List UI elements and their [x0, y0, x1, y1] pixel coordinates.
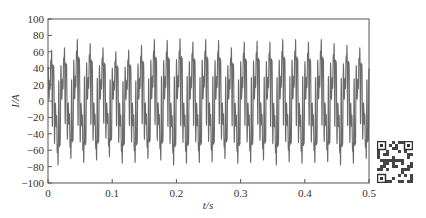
x-tick-label: 0.5	[362, 187, 376, 199]
y-axis-label: I/A	[9, 94, 21, 109]
y-tick-label: −40	[27, 128, 45, 140]
current-waveform-chart: 100806040200−20−40−60−80−100 00.10.20.30…	[0, 0, 426, 218]
x-tick-label: 0.4	[298, 187, 312, 199]
x-axis-ticks: 00.10.20.30.40.5	[45, 179, 376, 199]
x-tick-label: 0	[45, 187, 51, 199]
qr-code-icon	[377, 141, 413, 183]
y-tick-label: 60	[33, 46, 45, 58]
x-axis-label: t/s	[203, 199, 213, 211]
y-tick-label: 40	[33, 62, 45, 74]
x-tick-label: 0.1	[105, 187, 119, 199]
y-tick-label: 80	[33, 29, 45, 41]
y-tick-label: 20	[33, 79, 45, 91]
y-tick-label: −20	[27, 111, 45, 123]
y-axis-ticks: 100806040200−20−40−60−80−100	[21, 13, 52, 189]
y-tick-label: 100	[28, 13, 45, 25]
x-tick-label: 0.2	[170, 187, 184, 199]
y-tick-label: −60	[27, 144, 45, 156]
x-tick-label: 0.3	[234, 187, 248, 199]
y-tick-label: −100	[21, 177, 44, 189]
y-tick-label: −80	[27, 161, 45, 173]
current-trace	[48, 39, 369, 165]
y-tick-label: 0	[39, 95, 45, 107]
